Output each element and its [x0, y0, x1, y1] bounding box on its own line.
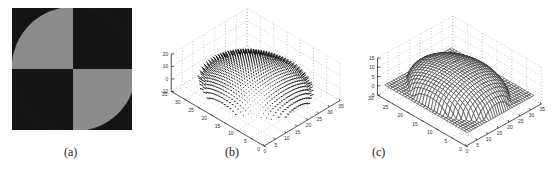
svg-text:15: 15 — [412, 121, 418, 127]
svg-text:10: 10 — [284, 135, 290, 141]
panel-a-image — [12, 8, 132, 130]
svg-text:0: 0 — [372, 83, 375, 89]
svg-text:20: 20 — [397, 112, 403, 118]
svg-text:20: 20 — [201, 115, 207, 121]
svg-text:20: 20 — [163, 51, 169, 57]
svg-text:25: 25 — [383, 104, 389, 110]
quiver-3d-plot: -10010200510152025303505101520253035 — [140, 0, 350, 177]
svg-text:10: 10 — [427, 129, 433, 135]
svg-text:10: 10 — [163, 63, 169, 69]
svg-text:0: 0 — [165, 76, 168, 82]
caption-c: (c) — [372, 145, 385, 160]
svg-text:10: 10 — [369, 64, 375, 70]
svg-text:15: 15 — [496, 130, 502, 136]
svg-text:5: 5 — [274, 142, 277, 148]
caption-a: (a) — [64, 145, 77, 160]
svg-text:30: 30 — [175, 99, 181, 105]
svg-text:5: 5 — [476, 142, 479, 148]
svg-text:10: 10 — [486, 136, 492, 142]
svg-text:25: 25 — [518, 118, 524, 124]
quadrant-disc-image — [12, 8, 132, 130]
svg-text:5: 5 — [444, 138, 447, 144]
svg-text:25: 25 — [188, 107, 194, 113]
svg-text:15: 15 — [215, 123, 221, 129]
svg-text:5: 5 — [244, 138, 247, 144]
svg-text:0: 0 — [466, 148, 469, 154]
svg-text:35: 35 — [338, 103, 344, 109]
caption-b: (b) — [225, 145, 239, 160]
svg-text:10: 10 — [228, 130, 234, 136]
svg-text:30: 30 — [368, 95, 374, 101]
svg-text:5: 5 — [372, 74, 375, 80]
svg-text:20: 20 — [306, 122, 312, 128]
svg-text:15: 15 — [295, 129, 301, 135]
panel-b-quiver-plot: -10010200510152025303505101520253035 — [140, 0, 350, 177]
svg-text:0: 0 — [257, 146, 260, 152]
svg-text:0: 0 — [459, 146, 462, 152]
svg-text:30: 30 — [327, 109, 333, 115]
svg-text:30: 30 — [529, 112, 535, 118]
svg-text:25: 25 — [316, 116, 322, 122]
svg-text:20: 20 — [507, 124, 513, 130]
svg-text:35: 35 — [162, 91, 168, 97]
svg-text:15: 15 — [369, 55, 375, 61]
svg-text:0: 0 — [264, 148, 267, 154]
svg-text:35: 35 — [539, 106, 545, 112]
